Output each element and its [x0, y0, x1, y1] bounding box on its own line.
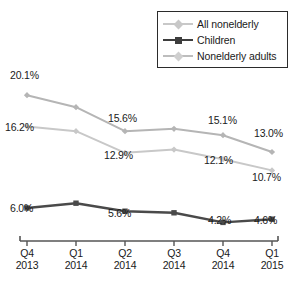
value-label: 13.0% [254, 128, 283, 139]
x-tick-year: 2013 [4, 259, 50, 271]
x-tick-label: Q32014 [151, 247, 197, 271]
value-label: 5.6% [108, 208, 131, 219]
x-tick-quarter: Q1 [249, 247, 295, 259]
figure-caption [6, 277, 296, 284]
x-tick-year: 2014 [151, 259, 197, 271]
value-label: 20.1% [10, 70, 39, 81]
data-point-marker [171, 210, 176, 215]
value-label: 12.9% [104, 150, 133, 161]
x-tick-quarter: Q2 [102, 247, 148, 259]
x-tick-year: 2014 [53, 259, 99, 271]
x-tick-year: 2015 [249, 259, 295, 271]
value-label: 15.1% [208, 115, 237, 126]
legend-label-nonelderly-adults: Nonelderly adults [197, 50, 276, 62]
data-point-marker [24, 92, 30, 98]
legend-item-all-nonelderly: All nonelderly [158, 16, 287, 32]
legend-item-nonelderly-adults: Nonelderly adults [158, 48, 287, 64]
data-point-marker [171, 126, 177, 132]
legend-item-children: Children [158, 32, 287, 48]
x-tick-year: 2014 [102, 259, 148, 271]
legend-marker-square-icon [163, 33, 193, 47]
chart-legend: All nonelderly Children Nonelderly adult… [157, 11, 288, 68]
legend-marker-diamond-light-icon [163, 49, 193, 63]
x-tick-quarter: Q4 [4, 247, 50, 259]
value-label: 4.2% [208, 215, 231, 226]
x-tick-quarter: Q3 [151, 247, 197, 259]
series-line [27, 126, 272, 170]
x-tick-label: Q22014 [102, 247, 148, 271]
legend-label-children: Children [197, 34, 235, 46]
data-point-marker [220, 132, 226, 138]
series-line [27, 203, 272, 222]
value-label: 4.6% [254, 215, 277, 226]
value-label: 16.2% [5, 122, 34, 133]
x-tick-label: Q42013 [4, 247, 50, 271]
value-label: 12.1% [204, 155, 233, 166]
data-point-marker [73, 201, 78, 206]
x-tick-quarter: Q1 [53, 247, 99, 259]
data-point-marker [269, 149, 275, 155]
value-label: 15.6% [108, 113, 137, 124]
x-tick-label: Q42014 [200, 247, 246, 271]
x-tick-quarter: Q4 [200, 247, 246, 259]
legend-label-all-nonelderly: All nonelderly [197, 18, 259, 30]
x-axis [20, 236, 278, 246]
x-tick-label: Q12014 [53, 247, 99, 271]
legend-marker-diamond-icon [163, 17, 193, 31]
series-nonelderly-adults [24, 92, 275, 155]
value-label: 6.0% [10, 203, 33, 214]
data-point-marker [73, 128, 79, 134]
x-tick-year: 2014 [200, 259, 246, 271]
value-label: 10.7% [252, 172, 281, 183]
data-point-marker [171, 147, 177, 153]
x-tick-label: Q12015 [249, 247, 295, 271]
uninsured-rate-line-chart: All nonelderly Children Nonelderly adult… [0, 0, 300, 284]
series-children [24, 201, 274, 226]
